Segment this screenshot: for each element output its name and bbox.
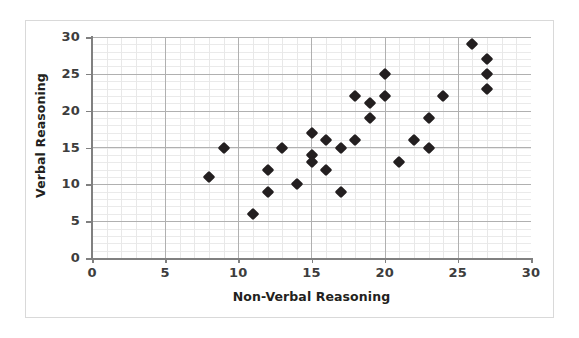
x-tick-label: 30 (511, 265, 551, 280)
y-tick (86, 148, 91, 150)
y-tick-label: 5 (48, 213, 80, 228)
x-tick (458, 258, 460, 263)
x-tick-label: 25 (438, 265, 478, 280)
y-tick-label: 0 (48, 250, 80, 265)
y-tick-label: 30 (48, 29, 80, 44)
x-tick-label: 0 (72, 265, 112, 280)
y-tick-label: 10 (48, 176, 80, 191)
y-tick (86, 184, 91, 186)
plot-area (92, 37, 531, 258)
x-tick-label: 15 (292, 265, 332, 280)
y-axis-line (91, 36, 93, 259)
scatter-chart-figure: 051015202530 051015202530 Non-Verbal Rea… (0, 0, 579, 338)
x-axis-label: Non-Verbal Reasoning (92, 289, 531, 304)
y-tick-label: 15 (48, 140, 80, 155)
x-tick (165, 258, 167, 263)
y-tick (86, 258, 91, 260)
y-tick-label: 20 (48, 103, 80, 118)
y-axis-label: Verbal Reasoning (33, 36, 48, 236)
x-tick (92, 258, 94, 263)
major-gridlines (92, 37, 531, 258)
x-tick-label: 10 (218, 265, 258, 280)
x-tick-label: 5 (145, 265, 185, 280)
x-tick-label: 20 (365, 265, 405, 280)
x-tick (385, 258, 387, 263)
x-tick (531, 258, 533, 263)
y-tick (86, 221, 91, 223)
y-tick (86, 111, 91, 113)
x-tick (312, 258, 314, 263)
y-tick (86, 74, 91, 76)
y-tick (86, 37, 91, 39)
y-tick-label: 25 (48, 66, 80, 81)
x-tick (238, 258, 240, 263)
